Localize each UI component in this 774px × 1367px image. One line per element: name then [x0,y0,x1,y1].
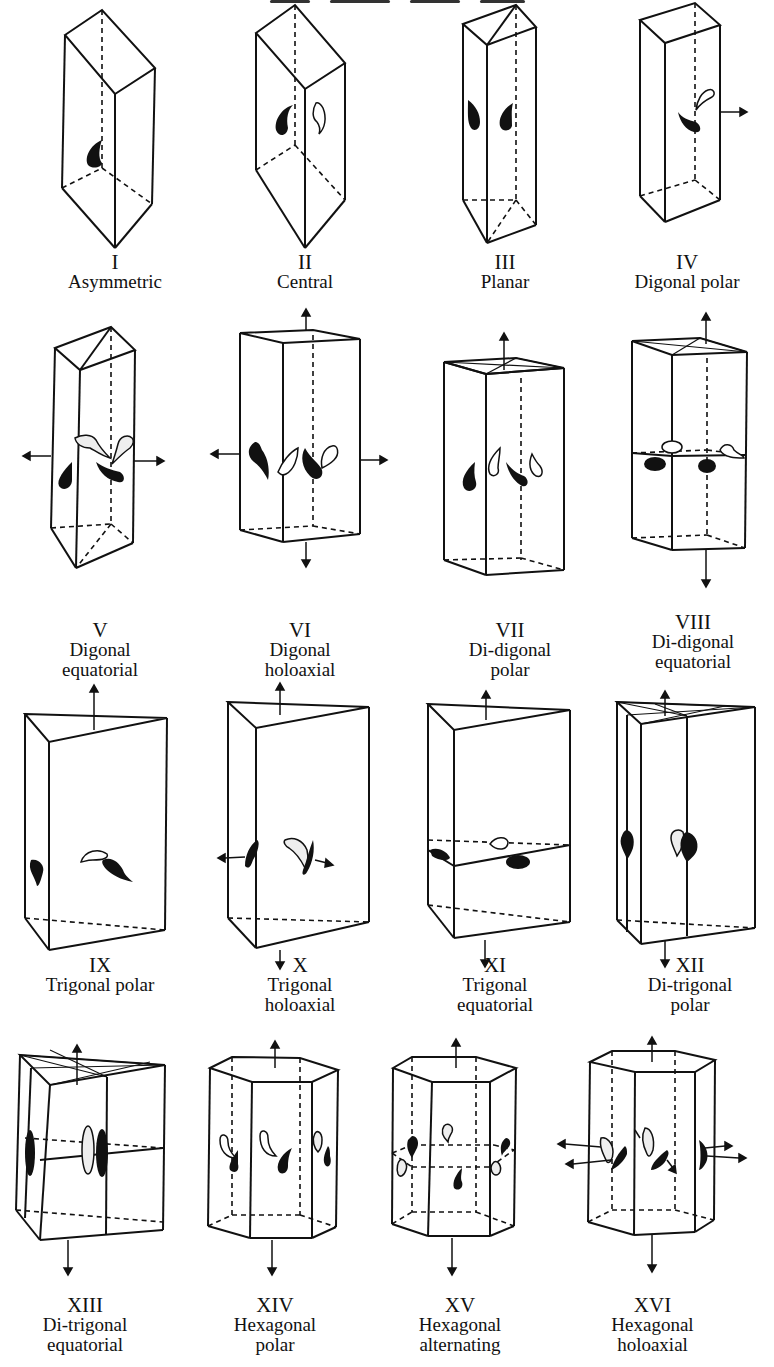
caption: IV Digonal polar [600,252,774,292]
filled-figure-motif [102,859,133,882]
caption: I Asymmetric [40,252,190,292]
figure-V: V Digonal equatorial [20,330,180,690]
figure-numeral: II [230,252,380,272]
figure-name-line-1: Hexagonal [200,1315,350,1335]
figure-VI: VI Digonal holoaxial [210,330,390,690]
figure-numeral: X [210,955,390,975]
figure-name: Trigonal polar [10,975,190,995]
filled-figure-motif [698,459,716,473]
figure-XIII: XIII Di-trigonal equatorial [10,1040,190,1367]
caption: III Planar [430,252,580,292]
filled-figure-motif [249,442,269,480]
filled-figure-motif [25,1130,35,1176]
figure-name-line-2: polar [200,1335,350,1355]
filled-figure-motif [58,462,72,489]
filled-figure-motif [278,1148,292,1173]
filled-figure-motif [651,1150,669,1170]
open-figure-motif [260,1131,276,1156]
filled-figure-motif [96,462,124,482]
figure-name-line-1: Di-digonal [420,640,600,660]
open-figure-motif [662,441,682,453]
figure-numeral: VII [420,620,600,640]
figure-numeral: VI [210,620,390,640]
figure-name-line-2: equatorial [405,995,585,1015]
twofold-axis-arrow [481,691,490,967]
figure-numeral: VIII [606,612,774,632]
filled-figure-motif [276,105,293,135]
figure-name-line-1: Hexagonal [555,1315,750,1335]
figure-name-line-1: Trigonal [210,975,390,995]
figure-name-line-2: alternating [390,1335,530,1355]
caption: XVI Hexagonal holoaxial [555,1295,750,1355]
caption: VIII Di-digonal equatorial [606,612,774,672]
open-figure-motif [530,454,542,476]
figure-numeral: XV [390,1295,530,1315]
open-figure-motif [313,103,325,134]
hatched-figure-motif [75,435,110,458]
hatched-figure-motif [284,838,308,868]
figure-XVI: XVI Hexagonal holoaxial [555,1040,774,1367]
figure-name: Digonal polar [600,272,774,292]
figure-VIII: VIII Di-digonal equatorial [620,330,774,690]
filled-figure-motif [430,849,450,860]
caption: II Central [230,252,380,292]
figure-numeral: XIII [10,1295,160,1315]
caption: X Trigonal holoaxial [210,955,390,1015]
hatched-figure-motif [491,1162,500,1175]
open-figure-motif [489,448,500,476]
caption: V Digonal equatorial [20,620,180,680]
figure-XIV: XIV Hexagonal polar [200,1040,380,1367]
figure-numeral: V [20,620,180,640]
filled-figure-motif [463,462,477,491]
figure-numeral: XVI [555,1295,750,1315]
caption: XI Trigonal equatorial [405,955,585,1015]
caption: XIII Di-trigonal equatorial [10,1295,160,1355]
caption: XIV Hexagonal polar [200,1295,350,1355]
caption: VI Digonal holoaxial [210,620,390,680]
caption: IX Trigonal polar [10,955,190,995]
hatched-figure-motif [643,1128,654,1156]
figure-I: I Asymmetric [40,0,190,320]
figure-II: II Central [230,0,380,320]
figure-name: Central [230,272,380,292]
figure-III: III Planar [430,0,580,320]
filled-figure-motif [644,457,666,471]
figure-numeral: I [40,252,190,272]
figure-name-line-2: polar [420,660,600,680]
figure-name-line-2: equatorial [606,652,774,672]
figure-name-line-2: equatorial [10,1335,160,1355]
twofold-axis-arrow [720,108,747,116]
polar-axis-arrow [90,685,98,730]
figure-name-line-1: Digonal [210,640,390,660]
polar-axis-arrow [661,691,669,967]
filled-figure-motif [500,103,513,131]
figure-name: Asymmetric [40,272,190,292]
hatched-figure-motif [600,1138,613,1163]
filled-figure-motif [30,860,43,886]
hatched-figure-motif [397,1160,406,1176]
figure-name: Planar [430,272,580,292]
figure-X: X Trigonal holoaxial [215,700,385,1020]
figure-name-line-1: Di-trigonal [10,1315,160,1335]
caption: XV Hexagonal alternating [390,1295,530,1355]
open-figure-motif [220,1135,236,1158]
filled-figure-motif [506,855,530,869]
filled-figure-motif [678,112,700,132]
filled-figure-motif [468,100,480,130]
figure-IV: IV Digonal polar [620,0,774,320]
figure-name-line-1: Trigonal [405,975,585,995]
polar-axis-arrow [268,1041,279,1275]
filled-figure-motif [87,140,102,168]
figure-numeral: XIV [200,1295,350,1315]
filled-figure-motif [680,832,697,862]
figure-numeral: III [430,252,580,272]
filled-figure-motif [506,462,528,486]
figure-numeral: IV [600,252,774,272]
filled-figure-motif [501,1138,510,1156]
open-figure-motif [321,446,337,468]
caption: VII Di-digonal polar [420,620,600,680]
filled-figure-motif [453,1168,462,1190]
figure-name-line-2: holoaxial [555,1335,750,1355]
filled-figure-motif [699,1140,708,1170]
figure-name-line-2: polar [600,995,774,1015]
